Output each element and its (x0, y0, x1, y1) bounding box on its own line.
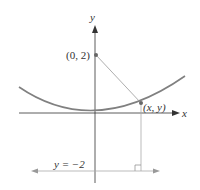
directrix-label: y = −2 (54, 159, 85, 170)
x-axis-label: x (182, 108, 187, 119)
y-axis-label: y (90, 12, 95, 23)
parabola-diagram (0, 0, 200, 190)
focus-point-label: (0, 2) (66, 50, 90, 61)
y-axis-arrow-icon (92, 25, 98, 33)
focus-to-point-line (96, 55, 141, 103)
curve-point-label: (x, y) (143, 102, 166, 113)
y-axis (92, 25, 98, 183)
directrix-left-arrow-icon (31, 169, 38, 174)
focus-point (94, 53, 98, 57)
directrix-right-arrow-icon (153, 169, 160, 174)
x-axis-arrow-icon (172, 110, 180, 116)
right-angle-marker (135, 165, 141, 171)
